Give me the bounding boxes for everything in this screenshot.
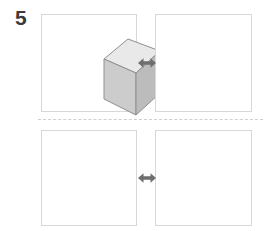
- row-divider: [38, 119, 263, 120]
- panel-bottom-right[interactable]: [155, 130, 252, 226]
- question-number: 5: [15, 7, 26, 28]
- panel-bottom-left[interactable]: [41, 130, 137, 226]
- worksheet-canvas: 5: [0, 0, 265, 231]
- rectangular-prism-shape: [102, 37, 162, 117]
- double-arrow-horizontal-icon: [138, 171, 156, 185]
- double-arrow-horizontal-icon: [138, 56, 156, 70]
- panel-top-right[interactable]: [155, 14, 252, 112]
- panel-top-left[interactable]: [41, 14, 137, 112]
